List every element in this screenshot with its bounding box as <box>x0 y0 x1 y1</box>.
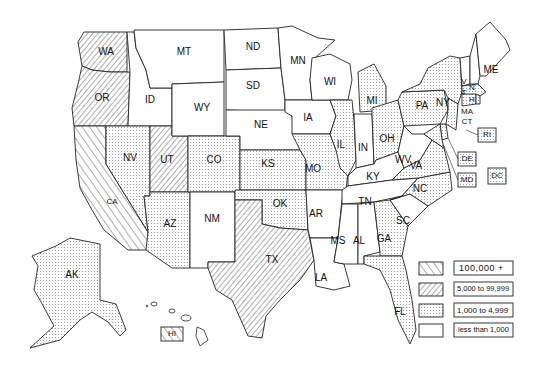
state-KS <box>240 150 306 190</box>
label-MO: MO <box>305 163 321 174</box>
label-DC: DC <box>491 171 503 180</box>
legend-swatch-5000-99999 <box>419 283 443 296</box>
legend-swatch-1000-4999 <box>419 304 443 317</box>
label-IN: IN <box>358 142 368 153</box>
label-ND: ND <box>246 41 260 52</box>
label-NE: NE <box>254 119 268 130</box>
us-choropleth-map: WA OR CA ID NV UT AZ MT WY CO NM ND SD N… <box>0 0 538 369</box>
label-MT: MT <box>177 46 191 57</box>
label-UT: UT <box>160 154 173 165</box>
label-CA: CA <box>106 197 118 206</box>
label-ME: ME <box>484 64 499 75</box>
label-OK: OK <box>273 198 288 209</box>
label-WA: WA <box>98 46 114 57</box>
state-RI <box>476 94 480 104</box>
label-KY: KY <box>366 171 380 182</box>
label-WY: WY <box>194 102 210 113</box>
label-LA: LA <box>315 272 328 283</box>
label-AL: AL <box>353 235 366 246</box>
label-IA: IA <box>303 112 313 123</box>
label-AR: AR <box>309 208 323 219</box>
label-CT: CT <box>462 117 473 126</box>
state-AK <box>30 238 126 348</box>
state-FL <box>364 256 416 344</box>
label-VA: VA <box>410 160 423 171</box>
legend-swatch-100000-plus <box>419 262 443 275</box>
label-CO: CO <box>207 154 222 165</box>
label-NV: NV <box>123 152 137 163</box>
label-WI: WI <box>324 76 336 87</box>
label-MA: MA <box>461 107 474 116</box>
label-TX: TX <box>266 254 279 265</box>
label-KS: KS <box>261 158 275 169</box>
legend: 100,000 + 5,000 to 99,999 1,000 to 4,999… <box>419 261 513 337</box>
label-MD: MD <box>461 175 474 184</box>
state-NM <box>190 192 235 268</box>
label-NY: NY <box>436 97 450 108</box>
label-MS: MS <box>331 235 346 246</box>
label-DE: DE <box>461 154 472 163</box>
label-RI: RI <box>483 130 491 139</box>
label-GA: GA <box>377 233 392 244</box>
label-ID: ID <box>145 94 155 105</box>
label-PA: PA <box>416 100 429 111</box>
label-HI: HI <box>168 329 176 338</box>
label-TN: TN <box>358 196 371 207</box>
label-WV: WV <box>395 154 411 165</box>
label-AZ: AZ <box>164 218 177 229</box>
label-MN: MN <box>290 55 306 66</box>
label-VT-2: T <box>462 88 467 97</box>
label-SD: SD <box>246 80 260 91</box>
label-SC: SC <box>396 215 410 226</box>
legend-label-100000-plus: 100,000 + <box>459 263 504 273</box>
label-NC: NC <box>413 183 427 194</box>
legend-swatch-less-than-1000 <box>419 324 443 337</box>
label-VT-1: V <box>461 77 467 86</box>
label-FL: FL <box>394 306 406 317</box>
label-OH: OH <box>380 133 395 144</box>
state-AZ <box>144 192 190 268</box>
label-NH-1: N <box>469 83 475 92</box>
legend-label-5000-99999: 5,000 to 99,999 <box>457 284 509 293</box>
label-NH-2: H <box>469 95 475 104</box>
label-MI: MI <box>366 95 377 106</box>
label-OR: OR <box>95 92 110 103</box>
legend-label-1000-4999: 1,000 to 4,999 <box>457 306 509 315</box>
legend-label-less-than-1000: less than 1,000 <box>458 325 509 334</box>
label-AK: AK <box>65 269 79 280</box>
label-IL: IL <box>337 139 346 150</box>
label-NM: NM <box>204 213 220 224</box>
